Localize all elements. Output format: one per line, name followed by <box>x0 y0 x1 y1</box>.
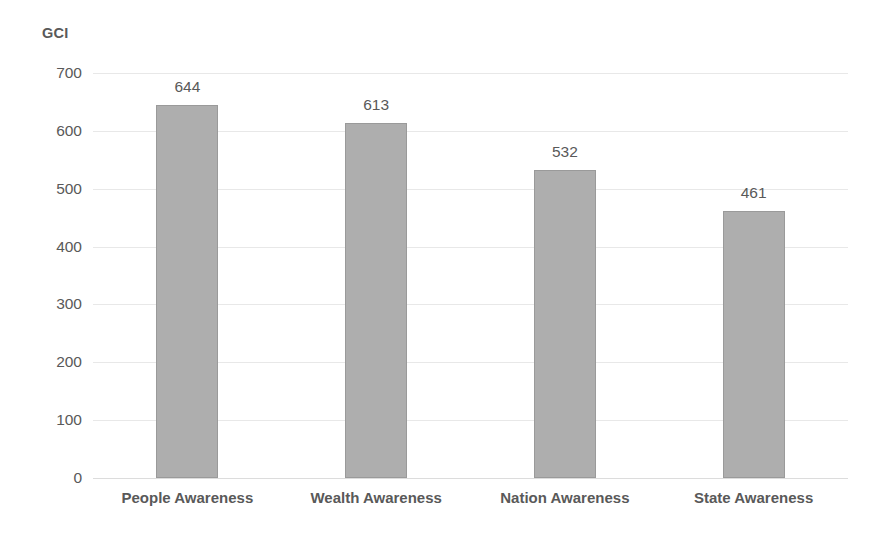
x-category-label: State Awareness <box>694 489 813 506</box>
bar[interactable] <box>156 105 218 478</box>
bar-value-label: 644 <box>174 78 200 96</box>
x-category-label: People Awareness <box>122 489 254 506</box>
gridline-0 <box>93 478 848 479</box>
bar-group: 532 <box>471 73 660 478</box>
bar-group: 644 <box>93 73 282 478</box>
bar[interactable] <box>723 211 785 478</box>
bar-value-label: 461 <box>741 184 767 202</box>
y-axis-title: GCI <box>42 25 68 41</box>
bar-value-label: 613 <box>363 96 389 114</box>
y-tick-label: 200 <box>22 353 82 371</box>
bar-chart: GCI 7006005004003002001000 644613532461 … <box>0 0 880 544</box>
y-tick-label: 400 <box>22 238 82 256</box>
x-category-label: Wealth Awareness <box>310 489 441 506</box>
y-tick-label: 700 <box>22 64 82 82</box>
y-tick-label: 600 <box>22 122 82 140</box>
y-tick-label: 500 <box>22 180 82 198</box>
bar-group: 613 <box>282 73 471 478</box>
bars-layer: 644613532461 <box>93 73 848 478</box>
bar[interactable] <box>534 170 596 478</box>
x-axis-category-labels: People AwarenessWealth AwarenessNation A… <box>93 489 848 519</box>
y-tick-label: 300 <box>22 295 82 313</box>
bar[interactable] <box>345 123 407 478</box>
bar-group: 461 <box>659 73 848 478</box>
bar-value-label: 532 <box>552 143 578 161</box>
y-tick-label: 0 <box>22 469 82 487</box>
x-category-label: Nation Awareness <box>500 489 629 506</box>
y-tick-label: 100 <box>22 411 82 429</box>
y-axis-tick-labels: 7006005004003002001000 <box>20 73 82 478</box>
